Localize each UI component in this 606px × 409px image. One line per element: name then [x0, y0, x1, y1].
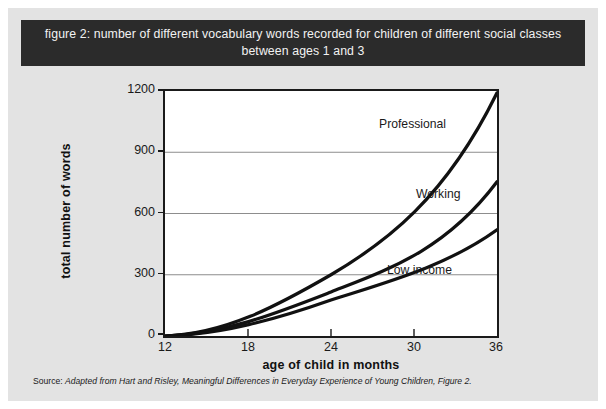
y-tick-label-0: 0	[148, 327, 155, 341]
figure-card: figure 2: number of different vocabulary…	[8, 8, 598, 401]
y-tick-label-300: 300	[134, 266, 155, 280]
x-axis-tick-marks	[248, 329, 414, 336]
y-axis-title: total number of words	[59, 143, 73, 278]
series-curves	[165, 93, 497, 336]
chart-plot-svg	[165, 91, 497, 336]
source-note-body: Adapted from Hart and Risley, Meaningful…	[65, 376, 472, 386]
y-tick-label-600: 600	[134, 205, 155, 219]
gridlines	[165, 152, 497, 275]
series-label-low-income: Low income	[387, 263, 452, 277]
x-tick-label-30: 30	[407, 340, 421, 354]
x-tick-label-12: 12	[158, 340, 172, 354]
plot-area: Professional Working Low income	[163, 89, 499, 338]
y-axis-tick-labels: 1200 900 600 300 0	[104, 89, 155, 334]
source-note-label: Source:	[33, 376, 63, 386]
x-tick-label-18: 18	[241, 340, 255, 354]
chart-canvas: total number of words 1200 900 600 300 0	[8, 8, 598, 401]
source-note: Source: Adapted from Hart and Risley, Me…	[33, 376, 472, 386]
series-curve-low-income	[165, 230, 497, 336]
x-tick-label-36: 36	[489, 340, 503, 354]
x-axis-title: age of child in months	[163, 358, 499, 372]
x-axis-tick-labels: 12 18 24 30 36	[163, 340, 499, 358]
series-label-professional: Professional	[379, 117, 446, 131]
y-tick-label-900: 900	[134, 143, 155, 157]
series-label-working: Working	[416, 187, 460, 201]
x-tick-label-24: 24	[324, 340, 338, 354]
y-tick-label-1200: 1200	[127, 82, 155, 96]
